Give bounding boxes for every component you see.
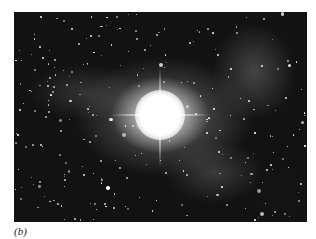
figure-caption: (b): [14, 225, 27, 237]
astronomical-photo: [14, 12, 307, 222]
bright-central-star: [135, 90, 185, 140]
